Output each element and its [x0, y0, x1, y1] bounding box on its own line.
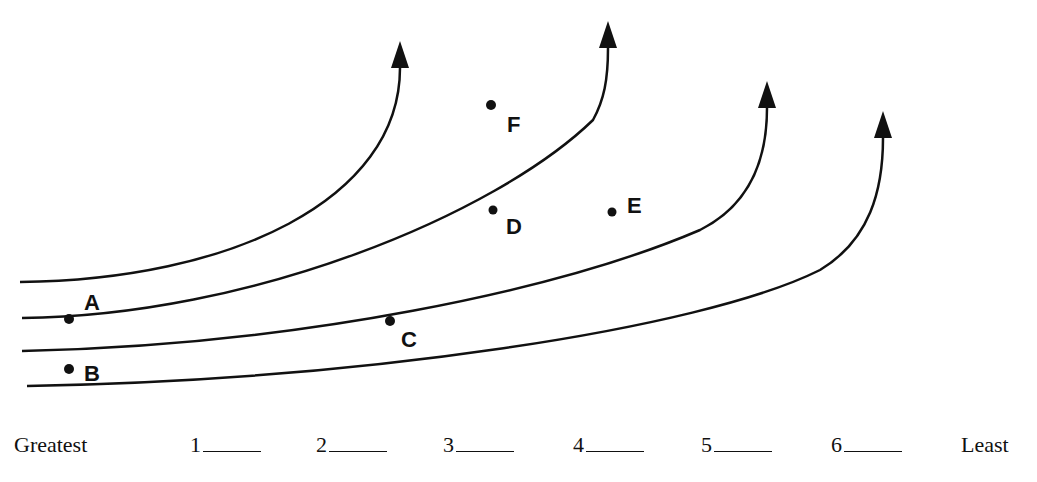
arrowhead-icon — [599, 21, 617, 48]
label-f: F — [507, 112, 520, 137]
point-d — [489, 206, 498, 215]
label-e: E — [627, 193, 642, 218]
arrowhead-icon — [874, 111, 892, 138]
point-f — [486, 100, 496, 110]
label-b: B — [84, 361, 100, 386]
rank-slot-3[interactable]: 3 — [443, 432, 514, 458]
label-a: A — [84, 290, 100, 315]
arrowhead-icon — [391, 41, 409, 68]
point-e — [608, 208, 617, 217]
rank-slot-4[interactable]: 4 — [573, 432, 644, 458]
rank-slot-1[interactable]: 1 — [190, 432, 261, 458]
arrowhead-icon — [758, 81, 776, 108]
flow-lines-diagram: A B C D E F — [0, 0, 1037, 430]
point-a — [64, 314, 74, 324]
ranking-row: Greatest 1 2 3 4 5 6 Least — [0, 432, 1037, 472]
least-label: Least — [961, 432, 1009, 458]
flow-line-2 — [22, 48, 608, 318]
flow-line-1 — [20, 68, 400, 282]
rank-slot-6[interactable]: 6 — [831, 432, 902, 458]
rank-slot-2[interactable]: 2 — [316, 432, 387, 458]
point-c — [385, 316, 395, 326]
greatest-label: Greatest — [14, 432, 87, 458]
label-c: C — [401, 327, 417, 352]
label-d: D — [506, 214, 522, 239]
point-b — [64, 364, 74, 374]
flow-line-3 — [22, 108, 767, 351]
rank-slot-5[interactable]: 5 — [701, 432, 772, 458]
